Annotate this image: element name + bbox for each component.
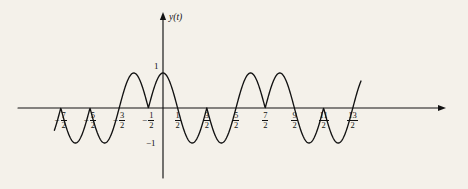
fraction: 52 [90, 111, 96, 129]
x-tick-label: −32 [113, 111, 126, 129]
x-tick-label: −12 [142, 111, 155, 129]
y-tick-label-positive-one: 1 [154, 62, 159, 71]
x-tick-label: 52 [233, 111, 239, 129]
waveform-plot [0, 0, 468, 189]
y-axis-arrowhead [160, 12, 166, 20]
fraction: 12 [175, 111, 181, 129]
x-axis-arrowhead [438, 105, 446, 111]
x-tick-label: 72 [262, 111, 268, 129]
fraction-denominator: 2 [175, 121, 181, 130]
fraction-denominator: 2 [291, 121, 297, 130]
fraction-denominator: 2 [347, 121, 358, 130]
x-tick-label: 92 [291, 111, 297, 129]
fraction-denominator: 2 [148, 121, 154, 130]
fraction: 52 [233, 111, 239, 129]
x-tick-label: 132 [347, 111, 358, 129]
y-axis-label: y(t) [169, 13, 182, 23]
x-tick-label: 12 [175, 111, 181, 129]
fraction-denominator: 2 [204, 121, 210, 130]
axes-layer [18, 12, 446, 178]
fraction-denominator: 2 [233, 121, 239, 130]
fraction: 92 [291, 111, 297, 129]
minus-sign: − [54, 116, 59, 125]
minus-sign: − [113, 116, 118, 125]
fraction: 12 [148, 111, 154, 129]
fraction-denominator: 2 [61, 121, 67, 130]
fraction: 72 [262, 111, 268, 129]
fraction-denominator: 2 [262, 121, 268, 130]
y-tick-label-negative-one: −1 [146, 139, 156, 148]
fraction: 32 [119, 111, 125, 129]
fraction: 112 [319, 111, 329, 129]
minus-sign: − [142, 116, 147, 125]
fraction-denominator: 2 [90, 121, 96, 130]
x-tick-label: 112 [319, 111, 329, 129]
x-tick-label: 32 [204, 111, 210, 129]
fraction: 72 [61, 111, 67, 129]
fraction-denominator: 2 [119, 121, 125, 130]
figure-container: −72−52−32−121232527292112132 1 −1 y(t) [0, 0, 468, 189]
fraction-denominator: 2 [319, 121, 329, 130]
minus-sign: − [84, 116, 89, 125]
fraction: 32 [204, 111, 210, 129]
fraction: 132 [347, 111, 358, 129]
x-tick-label: −72 [54, 111, 67, 129]
x-tick-label: −52 [84, 111, 97, 129]
